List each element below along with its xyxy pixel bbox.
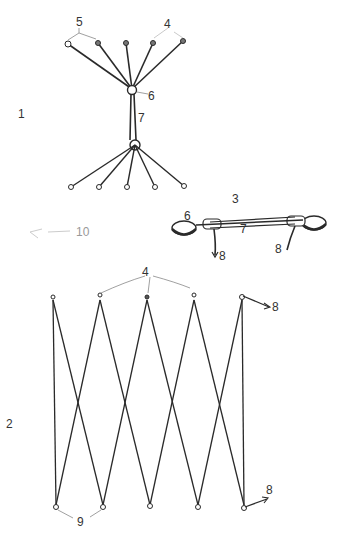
figure-2 <box>51 276 270 518</box>
label-9-bottom-rings: 9 <box>77 516 84 528</box>
figure-3-number: 3 <box>232 193 239 205</box>
figure-3 <box>172 216 326 257</box>
label-7-connector: 7 <box>138 112 145 124</box>
figure-1-number: 1 <box>18 108 25 120</box>
label-8-hook-right: 8 <box>275 243 282 255</box>
label-6-hub: 6 <box>148 90 155 102</box>
patent-drawing <box>0 0 346 534</box>
figure-2-number: 2 <box>6 418 13 430</box>
label-10: 10 <box>76 226 89 238</box>
label-7-connector-fig3: 7 <box>240 223 247 235</box>
label-8-hook-left: 8 <box>219 250 226 262</box>
label-8-hook-bottom: 8 <box>266 484 273 496</box>
label-4-cords-fig1: 4 <box>164 18 171 30</box>
label-4-cords-fig2: 4 <box>142 266 149 278</box>
label-6-pad: 6 <box>184 210 191 222</box>
label-8-hook-top: 8 <box>272 301 279 313</box>
label-5-end-rings: 5 <box>76 16 83 28</box>
figure-10-element <box>30 229 70 238</box>
figure-1 <box>65 28 187 190</box>
